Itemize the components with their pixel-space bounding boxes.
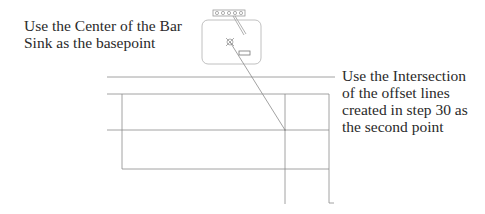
cad-drawing [0,0,485,214]
bar-sink [202,20,261,64]
faucet [213,10,246,35]
move-vector-line [230,42,285,130]
offset-lines [107,77,335,204]
sink-tag [239,51,250,55]
intersection-point [284,129,286,131]
